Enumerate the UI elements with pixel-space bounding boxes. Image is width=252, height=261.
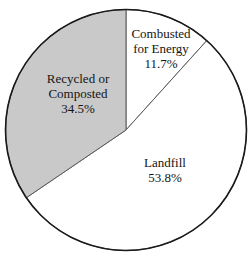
- pie-chart: Combusted for Energy 11.7% Recycled or C…: [0, 0, 252, 261]
- slice-label-combusted-for-energy: Combusted for Energy 11.7%: [123, 26, 199, 71]
- slice-value-landfill: 53.8%: [128, 170, 202, 185]
- slice-value-combusted-for-energy: 11.7%: [123, 56, 199, 71]
- slice-label-line-1: Recycled or: [32, 71, 124, 86]
- slice-value-recycled-or-composted: 34.5%: [32, 101, 124, 116]
- slice-label-recycled-or-composted: Recycled or Composted 34.5%: [32, 71, 124, 116]
- slice-label-landfill: Landfill 53.8%: [128, 155, 202, 185]
- slice-label-line-2: for Energy: [123, 41, 199, 56]
- slice-label-line-2: Composted: [32, 86, 124, 101]
- slice-label-line-1: Landfill: [128, 155, 202, 170]
- slice-label-line-1: Combusted: [123, 26, 199, 41]
